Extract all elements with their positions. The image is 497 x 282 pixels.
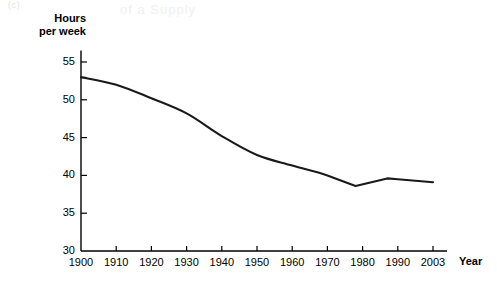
y-tick-label: 35 <box>49 206 75 218</box>
y-axis-title-line1: Hours <box>24 12 86 25</box>
y-tick-label: 40 <box>49 168 75 180</box>
x-axis-title: Year <box>459 255 482 267</box>
y-tick-label: 55 <box>49 55 75 67</box>
y-tick-label: 50 <box>49 93 75 105</box>
x-tick-label: 1920 <box>131 256 171 268</box>
chart-figure: (c) of a Supply Hours per week Year 3035… <box>0 0 497 282</box>
y-tick-label: 30 <box>49 244 75 256</box>
y-tick-label: 45 <box>49 131 75 143</box>
x-tick-label: 2003 <box>413 256 453 268</box>
y-axis-title-line2: per week <box>24 25 86 38</box>
x-tick-label: 1980 <box>343 256 383 268</box>
x-tick-label: 1900 <box>61 256 101 268</box>
x-tick-label: 1930 <box>167 256 207 268</box>
x-tick-label: 1960 <box>272 256 312 268</box>
bleed-through-text-title: of a Supply <box>120 2 196 17</box>
x-tick-label: 1910 <box>96 256 136 268</box>
data-line-average-hours-worked-per-week <box>81 77 433 186</box>
y-axis-title: Hours per week <box>24 12 86 38</box>
x-tick-label: 1990 <box>378 256 418 268</box>
x-tick-label: 1950 <box>237 256 277 268</box>
x-tick-label: 1970 <box>307 256 347 268</box>
axes-group <box>81 50 447 251</box>
x-tick-label: 1940 <box>202 256 242 268</box>
data-series-group <box>81 77 433 186</box>
bleed-through-text-top-left: (c) <box>8 0 20 10</box>
